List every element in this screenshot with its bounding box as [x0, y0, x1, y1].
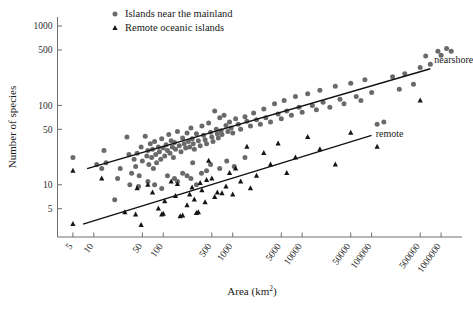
y-tick-label: 5 [48, 204, 53, 214]
data-point-circle [154, 160, 159, 165]
data-point-circle [194, 131, 199, 136]
data-point-circle [165, 173, 170, 178]
data-point-triangle [227, 170, 232, 175]
data-point-triangle [219, 190, 224, 195]
data-point-circle [444, 46, 449, 51]
data-point-triangle [305, 134, 310, 139]
data-point-circle [140, 158, 145, 163]
data-point-circle [268, 119, 273, 124]
trendlines-layer: nearshoreremote [83, 54, 473, 224]
data-point-circle [272, 101, 277, 106]
data-point-circle [185, 130, 190, 135]
data-point-circle [209, 135, 214, 140]
data-point-circle [227, 119, 232, 124]
x-axis-title: Area (km2) [227, 284, 277, 299]
data-point-circle [129, 171, 134, 176]
data-point-triangle [238, 178, 243, 183]
data-point-circle [211, 139, 216, 144]
data-point-circle [191, 141, 196, 146]
x-tick-label: 100 [149, 241, 166, 259]
legend: Islands near the mainlandRemote oceanic … [112, 8, 233, 33]
data-point-circle [258, 122, 263, 127]
x-tick-label: 10 [82, 241, 96, 255]
y-tick-label: 100 [38, 101, 53, 111]
data-point-circle [144, 154, 149, 159]
chart-canvas: 5105010050010005000100005000010000050000… [0, 0, 473, 311]
data-point-circle [168, 151, 173, 156]
data-point-triangle [254, 173, 259, 178]
legend-marker-circle [113, 12, 118, 17]
data-point-triangle [156, 206, 161, 211]
data-point-triangle [70, 221, 75, 226]
data-point-circle [171, 155, 176, 160]
data-point-circle [172, 176, 177, 181]
data-point-circle [132, 157, 137, 162]
trendline-remote [83, 135, 372, 224]
data-point-circle [251, 111, 256, 116]
y-tick-label: 1000 [34, 21, 53, 31]
data-point-circle [185, 173, 190, 178]
data-point-circle [133, 164, 138, 169]
data-point-circle [212, 109, 217, 114]
species-area-chart: 5105010050010005000100005000010000050000… [0, 0, 473, 311]
data-point-triangle [348, 130, 353, 135]
data-point-circle [159, 186, 164, 191]
x-tick-label: 5 [64, 241, 75, 251]
data-point-circle [317, 88, 322, 93]
data-point-circle [162, 154, 167, 159]
data-point-circle [149, 155, 154, 160]
series-nearshore [70, 46, 453, 202]
data-point-circle [179, 149, 184, 154]
data-point-triangle [212, 194, 217, 199]
data-point-circle [397, 87, 402, 92]
data-point-circle [219, 132, 224, 137]
data-point-triangle [215, 189, 220, 194]
data-point-circle [305, 91, 310, 96]
data-point-circle [423, 53, 428, 58]
data-point-triangle [275, 141, 280, 146]
data-point-triangle [261, 150, 266, 155]
data-point-circle [137, 173, 142, 178]
data-point-triangle [230, 192, 235, 197]
data-point-circle [190, 160, 195, 165]
data-point-circle [242, 155, 247, 160]
data-point-circle [159, 136, 164, 141]
data-point-circle [173, 147, 178, 152]
data-point-circle [139, 144, 144, 149]
data-point-circle [428, 62, 433, 67]
trendline-nearshore [87, 69, 430, 169]
data-point-triangle [139, 222, 144, 227]
legend-marker-triangle [112, 25, 117, 30]
data-point-circle [217, 166, 222, 171]
data-point-circle [418, 65, 423, 70]
data-point-circle [199, 124, 204, 129]
data-point-circle [289, 113, 294, 118]
data-point-triangle [204, 177, 209, 182]
data-point-circle [293, 94, 298, 99]
data-point-circle [354, 94, 359, 99]
data-point-circle [327, 105, 332, 110]
data-point-circle [358, 98, 363, 103]
data-point-circle [333, 84, 338, 89]
data-point-circle [230, 130, 235, 135]
axes-layer [58, 17, 463, 237]
data-point-circle [238, 127, 243, 132]
data-point-circle [390, 74, 395, 79]
data-point-circle [151, 166, 156, 171]
data-point-circle [143, 134, 148, 139]
data-point-circle [217, 115, 222, 120]
data-point-circle [348, 81, 353, 86]
data-point-triangle [70, 168, 75, 173]
x-tick-label: 1000 [215, 241, 234, 263]
data-point-circle [146, 162, 151, 167]
data-point-triangle [198, 180, 203, 185]
data-point-triangle [150, 189, 155, 194]
legend-label: Remote oceanic islands [125, 22, 224, 33]
y-tick-label: 500 [38, 45, 53, 55]
data-point-circle [127, 182, 132, 187]
data-point-circle [314, 107, 319, 112]
data-point-circle [175, 129, 180, 134]
data-point-circle [248, 124, 253, 129]
data-point-circle [158, 157, 163, 162]
x-tick-label: 500 [197, 241, 214, 259]
